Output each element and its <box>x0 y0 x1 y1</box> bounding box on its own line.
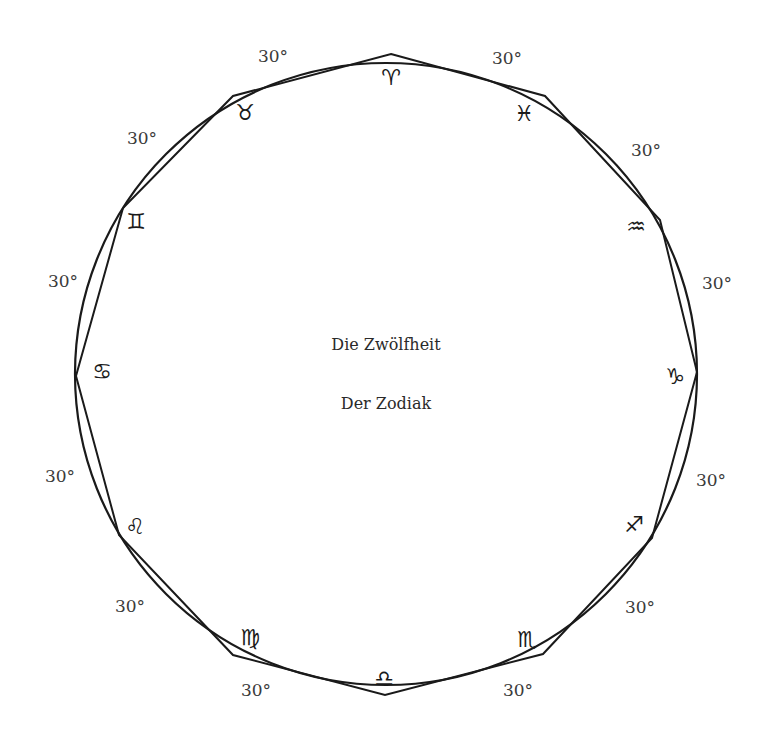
arc-label: 30° <box>258 48 288 65</box>
arc-label: 30° <box>702 275 732 292</box>
arc-label: 30° <box>45 468 75 485</box>
zodiac-circle <box>75 63 697 685</box>
cancer-icon: ♋︎ <box>92 361 112 383</box>
leo-icon: ♌︎ <box>125 516 145 538</box>
arc-label: 30° <box>631 142 661 159</box>
libra-icon: ♎︎ <box>374 668 394 690</box>
arc-label: 30° <box>115 598 145 615</box>
arc-label: 30° <box>625 599 655 616</box>
capricorn-icon: ♑︎ <box>665 366 685 388</box>
arc-label: 30° <box>241 682 271 699</box>
zodiac-circle-and-polygon <box>0 0 770 743</box>
pisces-icon: ♓︎ <box>514 103 534 125</box>
sagittarius-icon: ♐︎ <box>624 514 644 536</box>
title-die-zwoelfheit: Die Zwölfheit <box>331 335 440 354</box>
aries-icon: ♈︎ <box>381 67 401 89</box>
taurus-icon: ♉︎ <box>235 102 255 124</box>
arc-label: 30° <box>696 472 726 489</box>
arc-label: 30° <box>127 130 157 147</box>
arc-label: 30° <box>48 273 78 290</box>
arc-label: 30° <box>492 50 522 67</box>
virgo-icon: ♍︎ <box>240 627 260 649</box>
subtitle-der-zodiak: Der Zodiak <box>341 394 431 413</box>
gemini-icon: ♊︎ <box>126 211 146 233</box>
aquarius-icon: ♒︎ <box>626 216 646 238</box>
zodiac-diagram: Die Zwölfheit Der Zodiak ♈︎♓︎♒︎♑︎♐︎♏︎♎︎♍… <box>0 0 770 743</box>
arc-label: 30° <box>503 682 533 699</box>
scorpio-icon: ♏︎ <box>517 629 537 651</box>
